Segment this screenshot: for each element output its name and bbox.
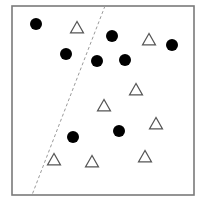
- triangle-marker: [143, 34, 156, 45]
- circle-marker: [106, 30, 118, 42]
- circle-marker: [166, 39, 178, 51]
- circle-marker: [67, 131, 79, 143]
- circle-marker: [91, 55, 103, 67]
- triangle-markers: [48, 22, 163, 167]
- triangle-marker: [139, 151, 152, 162]
- triangle-marker: [71, 22, 84, 33]
- triangle-marker: [150, 118, 163, 129]
- triangle-marker: [48, 154, 61, 165]
- circle-marker: [113, 125, 125, 137]
- triangle-marker: [86, 156, 99, 167]
- circle-marker: [60, 48, 72, 60]
- scatter-diagram: [0, 0, 201, 206]
- triangle-marker: [98, 100, 111, 111]
- circle-marker: [30, 18, 42, 30]
- circle-marker: [119, 54, 131, 66]
- triangle-marker: [130, 84, 143, 95]
